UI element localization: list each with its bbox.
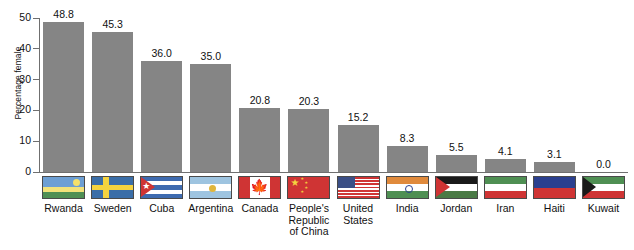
flag-emblem: [209, 185, 216, 192]
flag-band: [534, 177, 575, 188]
flag-band: [387, 177, 428, 184]
argentina-flag: [189, 176, 232, 199]
category-label-line: Cuba: [137, 203, 186, 215]
category-label: Cuba: [137, 203, 186, 215]
category-label: Kuwait: [579, 203, 628, 215]
flag-slot: Jordan: [432, 176, 481, 246]
china-flag: ★★★★★: [287, 176, 330, 199]
category-label-line: Sweden: [88, 203, 137, 215]
category-label-line: Iran: [481, 203, 530, 215]
flag-slot: ★Cuba: [137, 176, 186, 246]
category-label: Jordan: [432, 203, 481, 215]
flag-band: [190, 191, 231, 198]
flag-triangle: [436, 177, 450, 197]
flag-band: [103, 177, 110, 198]
flag-band: [534, 188, 575, 199]
maple-leaf-icon: 🍁: [239, 179, 280, 194]
category-label-line: Kuwait: [579, 203, 628, 215]
iran-flag: [484, 176, 527, 199]
category-label: UnitedStates: [334, 203, 383, 226]
category-label: Rwanda: [39, 203, 88, 215]
flag-star: ★: [142, 182, 150, 191]
category-label: Haiti: [530, 203, 579, 215]
category-label-line: Canada: [235, 203, 284, 215]
category-label: Canada: [235, 203, 284, 215]
category-label: People'sRepublicof China: [284, 203, 333, 238]
category-label-line: States: [334, 215, 383, 227]
category-label-line: Rwanda: [39, 203, 88, 215]
flag-band: [190, 177, 231, 184]
flag-band: [338, 196, 379, 198]
flag-slot: Argentina: [186, 176, 235, 246]
flag-star: ★: [290, 178, 299, 188]
flag-slot: UnitedStates: [334, 176, 383, 246]
category-label-line: Jordan: [432, 203, 481, 215]
flag-slot: ★★★★★People'sRepublicof China: [284, 176, 333, 246]
flag-star: ★: [300, 190, 304, 194]
flag-slot: India: [383, 176, 432, 246]
category-label: Iran: [481, 203, 530, 215]
kuwait-flag: [582, 176, 625, 199]
flag-axis: RwandaSweden★CubaArgentina🍁Canada★★★★★Pe…: [39, 0, 628, 250]
category-label-line: Haiti: [530, 203, 579, 215]
flag-band: [338, 190, 379, 192]
united-states-flag: [337, 176, 380, 199]
flag-band: [485, 184, 526, 191]
flag-canton: [338, 177, 355, 188]
y-tick-label: 20: [0, 103, 31, 115]
category-label-line: United: [334, 203, 383, 215]
y-tick-label: 10: [0, 134, 31, 146]
flag-slot: Kuwait: [579, 176, 628, 246]
category-label-line: India: [383, 203, 432, 215]
category-label: India: [383, 203, 432, 215]
india-flag: [386, 176, 429, 199]
flag-slot: Rwanda: [39, 176, 88, 246]
category-label-line: People's: [284, 203, 333, 215]
chart-root: Percentage female 01020304050 48.845.336…: [0, 0, 634, 250]
rwanda-flag: [42, 176, 85, 199]
flag-band: [485, 191, 526, 198]
flag-slot: Haiti: [530, 176, 579, 246]
flag-band: [485, 177, 526, 184]
category-label: Argentina: [186, 203, 235, 215]
haiti-flag: [533, 176, 576, 199]
flag-star: ★: [304, 186, 308, 190]
flag-band: [43, 192, 84, 198]
category-label-line: Argentina: [186, 203, 235, 215]
sweden-flag: [91, 176, 134, 199]
flag-slot: 🍁Canada: [235, 176, 284, 246]
category-label: Sweden: [88, 203, 137, 215]
canada-flag: 🍁: [238, 176, 281, 199]
y-tick-label: 30: [0, 73, 31, 85]
flag-band: [338, 193, 379, 195]
y-tick-label: 40: [0, 42, 31, 54]
y-tick-label: 0: [0, 165, 31, 177]
category-label-line: of China: [284, 226, 333, 238]
flag-band: [92, 185, 133, 190]
flag-slot: Iran: [481, 176, 530, 246]
flag-slot: Sweden: [88, 176, 137, 246]
cuba-flag: ★: [140, 176, 183, 199]
flag-triangle: [583, 177, 596, 197]
jordan-flag: [435, 176, 478, 199]
y-tick-label: 50: [0, 11, 31, 23]
